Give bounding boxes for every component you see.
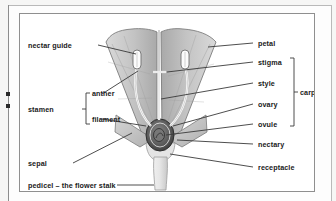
margin-marker-lower — [6, 104, 10, 108]
label-pedicel: pedicel – the flower stalk — [28, 182, 116, 189]
label-nectar-guide: nectar guide — [28, 42, 72, 49]
leader-receptacle — [170, 154, 253, 167]
label-stamen: stamen — [28, 106, 54, 113]
label-carpel: carpel — [300, 89, 315, 96]
bracket-stamen — [86, 93, 90, 124]
pedicel-stalk — [154, 157, 168, 190]
label-ovule: ovule — [258, 121, 277, 128]
left-margin-rule — [8, 5, 9, 201]
label-stigma: stigma — [258, 59, 282, 66]
label-nectary: nectary — [258, 141, 284, 148]
margin-marker-upper — [6, 92, 10, 96]
label-petal: petal — [258, 40, 275, 47]
label-ovary: ovary — [258, 101, 278, 108]
bracket-carpel — [290, 58, 294, 126]
leader-sepal — [73, 133, 132, 163]
label-filament: filament — [92, 116, 120, 123]
screenshot-page: nectar guide stamen anther filament sepa… — [0, 0, 336, 201]
label-sepal: sepal — [28, 160, 47, 167]
label-style: style — [258, 80, 275, 87]
label-anther: anther — [92, 90, 115, 97]
diagram-frame: nectar guide stamen anther filament sepa… — [19, 13, 315, 192]
label-receptacle: receptacle — [258, 164, 295, 171]
